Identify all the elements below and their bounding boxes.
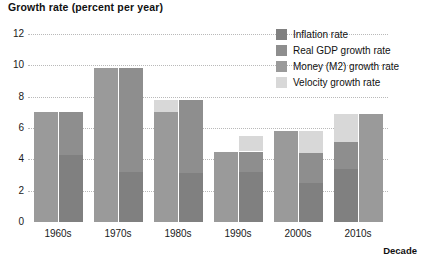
y-axis-tick-label: 10: [2, 60, 24, 70]
growth-rate-bar-chart: Growth rate (percent per year) 024681012…: [0, 0, 425, 266]
x-axis-title: Decade: [383, 245, 417, 256]
bar-segment: [334, 114, 358, 142]
bar-segment: [119, 68, 143, 171]
bar-segment: [299, 131, 323, 153]
bar-group: [34, 34, 83, 222]
bar-segment: [239, 172, 263, 222]
y-axis-tick-label: 4: [2, 154, 24, 164]
bar-segment: [334, 142, 358, 169]
bar-segment: [94, 68, 118, 222]
y-axis-tick-label: 2: [2, 186, 24, 196]
bar-segment: [119, 172, 143, 222]
bar-segment: [154, 100, 178, 113]
bar-group: [154, 34, 203, 222]
bar: [94, 34, 118, 222]
bar-segment: [59, 155, 83, 222]
bar-segment: [274, 131, 298, 222]
y-axis-tick-label: 12: [2, 29, 24, 39]
bar-segment: [179, 173, 203, 222]
bar-segment: [214, 152, 238, 223]
bar-segment: [299, 183, 323, 222]
y-axis-tick-label: 0: [2, 217, 24, 227]
bar: [274, 34, 298, 222]
y-axis-tick-label: 6: [2, 123, 24, 133]
bar-group: [214, 34, 263, 222]
bar: [34, 34, 58, 222]
bar-segment: [179, 100, 203, 174]
bar-group: [274, 34, 323, 222]
y-axis-tick-label: 8: [2, 92, 24, 102]
bar-segment: [154, 112, 178, 222]
bar-segment: [359, 114, 383, 222]
bar-segment: [239, 136, 263, 152]
bar-segment: [334, 169, 358, 222]
bar: [119, 34, 143, 222]
bar-segment: [239, 152, 263, 172]
bar: [59, 34, 83, 222]
bar: [299, 34, 323, 222]
bar-group: [94, 34, 143, 222]
x-axis-tick-label: 2010s: [322, 228, 395, 240]
bar: [154, 34, 178, 222]
bar: [359, 34, 383, 222]
bar: [239, 34, 263, 222]
bar: [179, 34, 203, 222]
bar: [334, 34, 358, 222]
bar-segment: [59, 112, 83, 154]
bar-segment: [299, 153, 323, 183]
bar-segment: [34, 112, 58, 222]
bar: [214, 34, 238, 222]
chart-title: Growth rate (percent per year): [8, 1, 163, 13]
bar-group: [334, 34, 383, 222]
